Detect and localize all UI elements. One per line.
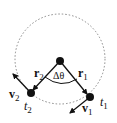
- t1-label: t1: [100, 95, 108, 111]
- delta-theta-label: Δθ: [53, 70, 64, 81]
- v2-label: v2: [9, 87, 20, 103]
- t2-label: t2: [24, 99, 32, 115]
- v2-vector: [13, 74, 31, 93]
- v1-label: v1: [82, 101, 93, 117]
- r1-label: r1: [78, 66, 88, 82]
- r2-label: r2: [34, 66, 44, 82]
- circular-motion-diagram: r2 r1 Δθ v2 v1 t2 t1: [0, 0, 117, 123]
